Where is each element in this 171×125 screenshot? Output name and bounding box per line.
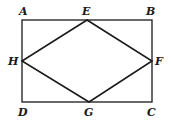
label-f: F [154, 55, 164, 68]
label-c: C [147, 106, 156, 119]
label-e: E [81, 5, 91, 18]
geometry-diagram: A E B H F D G C [0, 0, 171, 125]
rectangle-abcd [22, 20, 152, 102]
label-h: H [7, 55, 19, 68]
rhombus-efgh [22, 20, 152, 102]
label-g: G [84, 106, 93, 119]
label-d: D [17, 106, 28, 119]
label-b: B [145, 5, 155, 18]
label-a: A [18, 5, 28, 18]
